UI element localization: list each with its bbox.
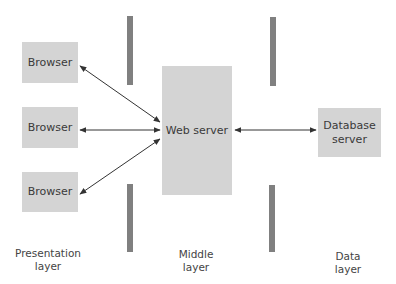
presentation-layer-line1: Presentation: [15, 247, 81, 260]
middle-layer-line2: layer: [179, 261, 214, 274]
arrow-browser1-webserver: [80, 66, 160, 122]
presentation-layer-label: Presentation layer: [15, 247, 81, 273]
data-layer-line1: Data: [335, 250, 361, 263]
presentation-layer-line2: layer: [15, 260, 81, 273]
middle-layer-line1: Middle: [179, 248, 214, 261]
arrow-browser3-webserver: [80, 139, 160, 194]
middle-layer-label: Middle layer: [179, 248, 214, 274]
connection-arrows: [0, 0, 396, 284]
data-layer-line2: layer: [335, 263, 361, 276]
data-layer-label: Data layer: [335, 250, 361, 276]
